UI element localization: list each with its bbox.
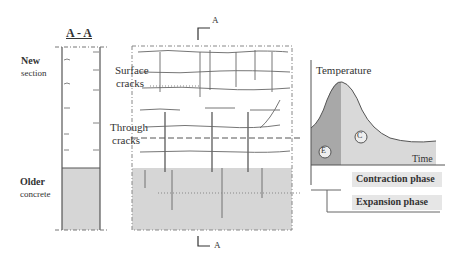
expansion-phase-label: Expansion phase	[356, 196, 428, 207]
contraction-phase-label: Contraction phase	[356, 173, 435, 184]
section-title: A - A	[66, 26, 92, 41]
cut-marker-top-icon	[198, 28, 210, 40]
through-cracks-label-1: Through	[110, 121, 148, 133]
new-label-bold: New	[21, 55, 40, 66]
cut-marker-bottom-icon	[198, 236, 210, 246]
plan-view	[132, 46, 300, 230]
cut-marker-bottom-label: A	[214, 240, 221, 250]
x-axis-label: Time	[412, 153, 433, 164]
section-column	[55, 47, 108, 230]
temperature-chart	[311, 60, 445, 212]
surface-cracks-label-1: Surface	[115, 64, 149, 76]
new-label: section	[21, 68, 47, 78]
older-label: concrete	[20, 189, 50, 199]
surface-cracks-label-2: cracks	[116, 77, 144, 89]
marker-e: E	[321, 146, 326, 155]
cut-marker-top-label: A	[212, 15, 219, 25]
through-cracks-label-2: cracks	[112, 134, 140, 146]
marker-c: C	[357, 131, 362, 140]
y-axis-label: Temperature	[316, 64, 371, 76]
older-label-bold: Older	[20, 176, 45, 187]
